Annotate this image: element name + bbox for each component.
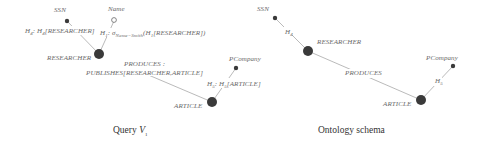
diagram-canvas: [0, 0, 482, 145]
researcher-label: RESEARCHER: [47, 54, 91, 62]
ssn-label: SSN: [54, 6, 66, 14]
article-label-schema: ARTICLE: [383, 100, 411, 108]
researcher-node: [94, 49, 104, 59]
produces-label-line2: PUBLISHES[RESEARCHER,ARTICLE]: [86, 69, 203, 77]
pcompany-edge-label-schema: H5: [435, 77, 443, 86]
ssn-node: [65, 19, 69, 23]
ontology-caption: Ontology schema: [318, 125, 385, 135]
pcompany-label-schema: PCompany: [426, 54, 458, 62]
ssn-node-schema: [273, 16, 277, 20]
pcompany-label: PCompany: [229, 55, 261, 63]
query-caption: Query V1: [113, 125, 147, 137]
name-edge-label: H1: σName=Smith(H1[RESEARCHER]): [100, 29, 206, 38]
researcher-label-schema: RESEARCHER: [317, 38, 361, 46]
article-node: [207, 97, 217, 107]
name-label: Name: [108, 5, 125, 13]
ssn-label-schema: SSN: [257, 5, 269, 13]
article-label: ARTICLE: [174, 102, 202, 110]
edge-ssn-researcher: [67, 21, 99, 54]
ssn-edge-label: H4: H4[RESEARCHER]: [25, 27, 95, 36]
pcompany-node-schema: [451, 64, 455, 68]
produces-label-line1: PRODUCES :: [124, 60, 165, 68]
article-node-schema: [416, 95, 426, 105]
name-node: [112, 18, 117, 23]
produces-label-schema: PRODUCES: [345, 69, 382, 77]
pcompany-edge-label: H5: H5[ARTICLE]: [207, 80, 261, 89]
ssn-edge-label-schema: H4: [285, 28, 293, 37]
pcompany-node: [234, 66, 238, 70]
researcher-node-schema: [303, 46, 313, 56]
